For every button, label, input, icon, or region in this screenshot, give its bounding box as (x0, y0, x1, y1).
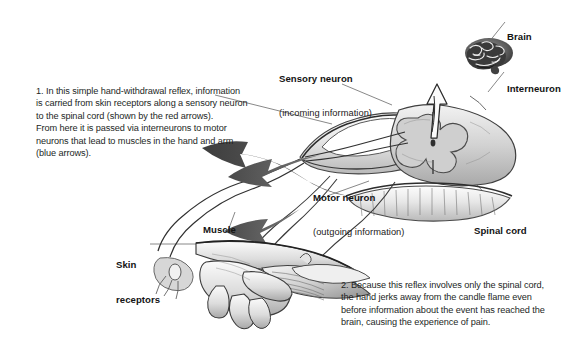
label-brain: Brain (507, 8, 532, 66)
label-skin-receptors-line1: Skin (116, 259, 160, 271)
label-sensory-neuron: Sensory neuron (incoming information) (279, 50, 372, 143)
paragraph-one: 1. In this simple hand-withdrawal reflex… (36, 85, 258, 159)
label-spinal-cord-title: Spinal cord (474, 225, 527, 237)
label-spinal-cord: Spinal cord (474, 202, 527, 260)
reflex-arc-figure: 1. In this simple hand-withdrawal reflex… (0, 0, 587, 349)
label-muscle-title: Muscle (203, 224, 236, 236)
label-motor-neuron-sub: (outgoing information) (313, 227, 404, 239)
label-motor-neuron: Motor neuron (outgoing information) (313, 169, 404, 262)
label-skin-receptors: Skin receptors (116, 236, 160, 329)
label-muscle: Muscle (203, 201, 236, 259)
label-brain-title: Brain (507, 31, 532, 43)
label-motor-neuron-title: Motor neuron (313, 192, 404, 204)
label-skin-receptors-line2: receptors (116, 294, 160, 306)
brain-illustration (465, 38, 513, 74)
label-interneuron: Interneuron (507, 60, 561, 118)
paragraph-two: 2. Because this reflex involves only the… (341, 279, 579, 329)
label-interneuron-title: Interneuron (507, 83, 561, 95)
label-sensory-neuron-sub: (incoming information) (279, 108, 372, 120)
label-sensory-neuron-title: Sensory neuron (279, 73, 372, 85)
